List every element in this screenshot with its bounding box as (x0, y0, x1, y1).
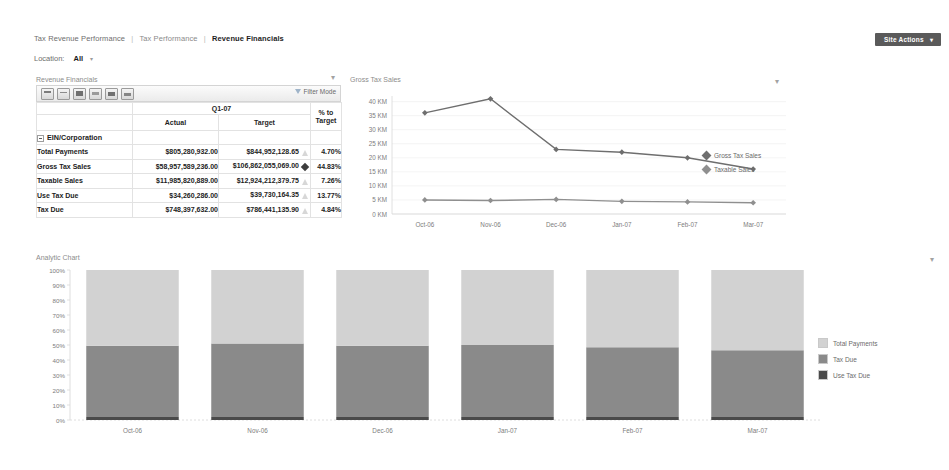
bar-segment[interactable] (461, 270, 554, 345)
table-row[interactable]: Total Payments $805,280,932.00 $844,952,… (37, 145, 342, 160)
breadcrumb-separator: | (127, 34, 137, 43)
site-actions-label: Site Actions (884, 36, 924, 43)
site-actions-button[interactable]: Site Actions ▾ (875, 33, 941, 46)
legend-marker-icon (702, 150, 712, 160)
bar-chart-title: Analytic Chart (36, 254, 80, 261)
legend-item[interactable]: Gross Tax Sales (703, 148, 761, 162)
row-target: $39,730,164.35 (250, 191, 299, 198)
y-axis-tick-label: 50% (53, 342, 66, 349)
bar-segment[interactable] (461, 417, 554, 420)
bar-segment[interactable] (586, 417, 679, 420)
scorecard-toolbar: Filter Mode (36, 85, 341, 102)
y-axis-tick-label: 25 KM (369, 140, 387, 147)
filter-mode-button[interactable]: Filter Mode (295, 88, 336, 95)
group-label: EIN/Corporation (47, 133, 102, 142)
row-target-cell: $106,862,055,069.00 (219, 159, 311, 174)
chevron-down-icon[interactable]: ▾ (85, 56, 93, 62)
bar-segment[interactable] (86, 346, 179, 417)
y-axis-tick-label: 20% (53, 387, 66, 394)
legend-label: Total Payments (833, 340, 877, 347)
table-row[interactable]: Gross Tax Sales $58,957,589,236.00 $106,… (37, 159, 342, 174)
bar-segment[interactable] (336, 417, 429, 420)
table-row[interactable]: Use Tax Due $34,260,286.00 $39,730,164.3… (37, 188, 342, 203)
filter-mode-label: Filter Mode (303, 88, 336, 95)
y-axis-tick-label: 20 KM (369, 154, 387, 161)
table-group-row[interactable]: EIN/Corporation (37, 131, 342, 145)
legend-swatch-icon (818, 338, 828, 348)
x-axis-tick-label: Mar-07 (748, 427, 768, 434)
breadcrumb-item-tax-revenue-performance[interactable]: Tax Revenue Performance (34, 34, 125, 43)
x-axis-tick-label: Nov-06 (480, 221, 501, 228)
bar-segment[interactable] (586, 347, 679, 417)
table-row[interactable]: Taxable Sales $11,985,820,889.00 $12,924… (37, 174, 342, 189)
header-blank-cell (37, 103, 133, 115)
scorecard-menu-icon[interactable]: ▾ (331, 76, 335, 80)
row-label: Tax Due (37, 203, 133, 218)
calendar-icon[interactable] (121, 88, 134, 100)
location-filter[interactable]: Location: All ▾ (34, 54, 93, 63)
columns-icon[interactable] (73, 88, 86, 100)
legend-item[interactable]: Taxable Sales (703, 162, 761, 176)
y-axis-tick-label: 40 KM (369, 98, 387, 105)
data-point-marker[interactable] (488, 198, 494, 204)
table-header-period-row: Q1-07 % to Target (37, 103, 342, 115)
legend-item[interactable]: Tax Due (818, 351, 877, 367)
y-axis-tick-label: 90% (53, 282, 66, 289)
legend-item[interactable]: Use Tax Due (818, 367, 877, 383)
group-actual-cell (133, 131, 219, 145)
data-point-marker[interactable] (619, 149, 625, 155)
bar-segment[interactable] (711, 417, 804, 420)
bar-segment[interactable] (211, 270, 304, 344)
new-item-icon[interactable] (57, 88, 70, 100)
row-target-cell: $12,924,212,379.75 (219, 174, 311, 189)
y-axis-tick-label: 40% (53, 357, 66, 364)
data-point-marker[interactable] (750, 200, 756, 206)
bar-segment[interactable] (211, 344, 304, 418)
bar-segment[interactable] (711, 270, 804, 350)
legend-label: Tax Due (833, 356, 857, 363)
table-row[interactable]: Tax Due $748,397,632.00 $786,441,135.90 … (37, 203, 342, 218)
row-pct: 44.83% (311, 159, 342, 174)
header-blank-cell-2 (37, 115, 133, 131)
group-label-cell[interactable]: EIN/Corporation (37, 131, 133, 145)
x-axis-tick-label: Jan-07 (612, 221, 632, 228)
location-filter-value[interactable]: All (67, 54, 84, 63)
column-header-actual[interactable]: Actual (133, 115, 219, 131)
bar-chart-menu-icon[interactable]: ▾ (930, 258, 934, 262)
bar-segment[interactable] (711, 350, 804, 417)
y-axis-tick-label: 70% (53, 312, 66, 319)
y-axis-tick-label: 30% (53, 372, 66, 379)
line-chart-title: Gross Tax Sales (350, 76, 401, 83)
bar-segment[interactable] (86, 270, 179, 346)
bar-chart[interactable]: 0%10%20%30%40%50%60%70%80%90%100%Oct-06N… (36, 262, 826, 442)
legend-item[interactable]: Total Payments (818, 335, 877, 351)
bar-segment[interactable] (336, 346, 429, 417)
row-target-cell: $786,441,135.90 (219, 203, 311, 218)
bar-segment[interactable] (211, 417, 304, 420)
breadcrumb-item-tax-performance[interactable]: Tax Performance (139, 34, 197, 43)
expand-collapse-icon[interactable] (37, 135, 44, 142)
chart-icon[interactable] (105, 88, 118, 100)
row-actual: $11,985,820,889.00 (133, 174, 219, 189)
data-point-marker[interactable] (619, 199, 625, 205)
row-actual: $748,397,632.00 (133, 203, 219, 218)
row-target-cell: $39,730,164.35 (219, 188, 311, 203)
legend-label: Taxable Sales (714, 166, 754, 173)
export-icon[interactable] (89, 88, 102, 100)
data-point-marker[interactable] (422, 197, 428, 203)
data-point-marker[interactable] (553, 197, 559, 203)
row-target-cell: $844,952,128.65 (219, 145, 311, 160)
bar-segment[interactable] (461, 345, 554, 417)
bar-segment[interactable] (586, 270, 679, 347)
status-indicator-triangle-icon (302, 179, 308, 185)
bar-segment[interactable] (336, 270, 429, 346)
y-axis-tick-label: 100% (49, 267, 65, 274)
pct-header-line1: % to (319, 109, 334, 116)
column-header-target[interactable]: Target (219, 115, 311, 131)
data-point-marker[interactable] (422, 110, 428, 116)
scorecard-panel: Filter Mode Q1-07 % to Target (36, 85, 341, 218)
open-icon[interactable] (41, 88, 54, 100)
bar-segment[interactable] (86, 417, 179, 420)
y-axis-tick-label: 0 KM (372, 211, 387, 218)
data-point-marker[interactable] (685, 155, 691, 161)
